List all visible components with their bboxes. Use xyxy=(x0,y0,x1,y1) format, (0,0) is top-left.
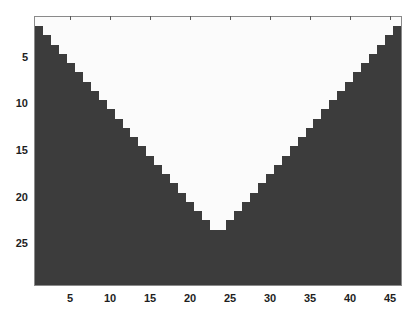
matrix-cell xyxy=(321,82,329,91)
matrix-cell xyxy=(369,211,377,220)
matrix-cell xyxy=(250,156,258,165)
matrix-cell xyxy=(345,183,353,192)
matrix-cell xyxy=(210,109,218,118)
matrix-cell xyxy=(138,183,146,192)
matrix-cell xyxy=(99,119,107,128)
matrix-cell xyxy=(226,220,234,229)
matrix-cell xyxy=(313,137,321,146)
matrix-cell xyxy=(43,128,51,137)
matrix-cell xyxy=(258,230,266,239)
matrix-cell xyxy=(210,267,218,276)
matrix-cell xyxy=(202,17,210,26)
matrix-cell xyxy=(234,165,242,174)
matrix-cell xyxy=(290,257,298,266)
matrix-cell xyxy=(369,45,377,54)
matrix-cell xyxy=(67,128,75,137)
matrix-cell xyxy=(345,156,353,165)
matrix-cell xyxy=(115,63,123,72)
matrix-cell xyxy=(274,220,282,229)
matrix-cell xyxy=(138,54,146,63)
matrix-cell xyxy=(250,165,258,174)
matrix-cell xyxy=(393,248,401,257)
matrix-cell xyxy=(154,202,162,211)
matrix-cell xyxy=(393,63,401,72)
matrix-cell xyxy=(250,128,258,137)
matrix-cell xyxy=(282,156,290,165)
matrix-cell xyxy=(329,137,337,146)
matrix-cell xyxy=(361,156,369,165)
matrix-cell xyxy=(242,82,250,91)
matrix-cell xyxy=(138,45,146,54)
matrix-cell xyxy=(51,137,59,146)
matrix-cell xyxy=(345,54,353,63)
matrix-cell xyxy=(130,202,138,211)
matrix-cell xyxy=(393,183,401,192)
matrix-cell xyxy=(130,239,138,248)
matrix-cell xyxy=(178,72,186,81)
matrix-cell xyxy=(59,211,67,220)
matrix-cell xyxy=(107,276,115,285)
matrix-cell xyxy=(226,45,234,54)
matrix-cell xyxy=(218,128,226,137)
matrix-cell xyxy=(35,174,43,183)
matrix-cell xyxy=(154,156,162,165)
matrix-cell xyxy=(170,230,178,239)
matrix-cell xyxy=(266,146,274,155)
matrix-cell xyxy=(345,165,353,174)
matrix-cell xyxy=(59,165,67,174)
matrix-cell xyxy=(329,45,337,54)
matrix-cell xyxy=(83,193,91,202)
matrix-cell xyxy=(329,100,337,109)
matrix-cell xyxy=(146,230,154,239)
matrix-cell xyxy=(35,72,43,81)
matrix-cell xyxy=(218,165,226,174)
matrix-cell xyxy=(361,211,369,220)
matrix-cell xyxy=(385,156,393,165)
matrix-cell xyxy=(258,91,266,100)
matrix-cell xyxy=(146,276,154,285)
matrix-cell xyxy=(337,54,345,63)
matrix-cell xyxy=(266,248,274,257)
matrix-cell xyxy=(43,165,51,174)
matrix-cell xyxy=(226,156,234,165)
matrix-cell xyxy=(35,257,43,266)
matrix-cell xyxy=(170,91,178,100)
matrix-cell xyxy=(329,72,337,81)
matrix-cell xyxy=(369,165,377,174)
matrix-cell xyxy=(210,137,218,146)
matrix-cell xyxy=(186,193,194,202)
matrix-cell xyxy=(146,146,154,155)
matrix-cell xyxy=(194,100,202,109)
matrix-cell xyxy=(345,26,353,35)
x-tick-mark xyxy=(390,16,391,20)
matrix-cell xyxy=(258,248,266,257)
matrix-cell xyxy=(146,165,154,174)
matrix-cell xyxy=(162,276,170,285)
matrix-cell xyxy=(130,100,138,109)
matrix-cell xyxy=(337,146,345,155)
matrix-cell xyxy=(258,156,266,165)
matrix-cell xyxy=(290,276,298,285)
matrix-cell xyxy=(250,91,258,100)
matrix-cell xyxy=(91,45,99,54)
matrix-cell xyxy=(99,211,107,220)
matrix-cell xyxy=(266,220,274,229)
matrix-cell xyxy=(91,82,99,91)
matrix-cell xyxy=(321,183,329,192)
matrix-cell xyxy=(178,165,186,174)
matrix-cell xyxy=(67,109,75,118)
matrix-cell xyxy=(377,276,385,285)
matrix-cell xyxy=(123,109,131,118)
matrix-cell xyxy=(99,109,107,118)
matrix-cell xyxy=(313,230,321,239)
matrix-cell xyxy=(393,109,401,118)
matrix-cell xyxy=(377,35,385,44)
matrix-cell xyxy=(75,146,83,155)
matrix-cell xyxy=(290,220,298,229)
matrix-cell xyxy=(298,82,306,91)
matrix-cell xyxy=(107,91,115,100)
matrix-cell xyxy=(306,202,314,211)
matrix-cell xyxy=(154,128,162,137)
matrix-cell xyxy=(83,128,91,137)
matrix-cell xyxy=(321,230,329,239)
